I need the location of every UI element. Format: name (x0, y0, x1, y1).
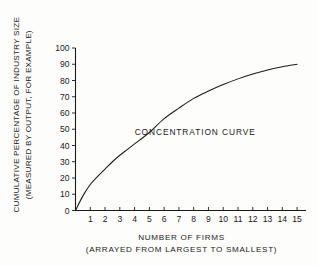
y-tick-label: 80 (60, 76, 70, 86)
y-tick-label: 100 (55, 43, 70, 53)
y-tick-label: 10 (60, 189, 70, 199)
x-tick-label: 4 (132, 214, 137, 224)
x-tick-label: 6 (162, 214, 167, 224)
concentration-curve-line (76, 64, 298, 210)
y-tick-label: 40 (60, 141, 70, 151)
y-tick-label: 30 (60, 157, 70, 167)
y-tick-label: 0 (65, 206, 70, 216)
x-tick-label: 11 (234, 214, 243, 224)
x-tick-label: 3 (117, 214, 122, 224)
x-tick-label: 13 (263, 214, 273, 224)
y-tick-label: 20 (60, 173, 70, 183)
y-tick-label: 70 (60, 92, 70, 102)
x-axis-title-main: NUMBER OF FIRMS (46, 232, 317, 244)
x-tick-label: 2 (103, 214, 108, 224)
chart-plot-area: 0102030405060708090100123456789101112131… (0, 0, 317, 232)
curve-annotation-label: CONCENTRATION CURVE (135, 127, 256, 137)
concentration-curve-figure: CUMULATIVE PERCENTAGE OF INDUSTRY SIZE (… (0, 0, 317, 266)
x-tick-label: 12 (248, 214, 258, 224)
x-tick-label: 7 (177, 214, 182, 224)
x-tick-label: 8 (191, 214, 196, 224)
y-tick-label: 60 (60, 108, 70, 118)
x-tick-label: 15 (292, 214, 302, 224)
x-tick-label: 9 (206, 214, 211, 224)
x-tick-label: 14 (278, 214, 288, 224)
x-axis-title-sub: (ARRAYED FROM LARGEST TO SMALLEST) (46, 244, 317, 256)
x-tick-label: 1 (88, 214, 93, 224)
x-tick-label: 10 (218, 214, 228, 224)
y-tick-label: 50 (60, 124, 70, 134)
y-tick-label: 90 (60, 59, 70, 69)
x-axis-title: NUMBER OF FIRMS (ARRAYED FROM LARGEST TO… (46, 232, 317, 256)
x-tick-label: 5 (147, 214, 152, 224)
